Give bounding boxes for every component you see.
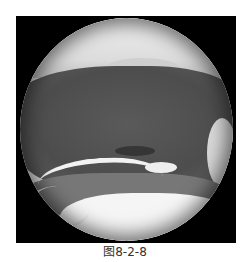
image-frame	[16, 16, 236, 243]
figure-caption: 图8-2-8	[0, 244, 250, 260]
vignette	[20, 18, 233, 241]
endoscopic-view	[20, 18, 233, 241]
